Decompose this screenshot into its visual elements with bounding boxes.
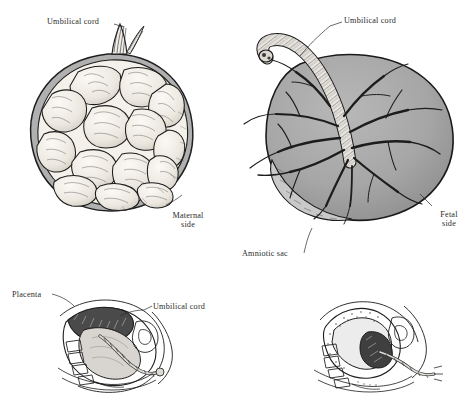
maternal-cord-stump: [112, 24, 144, 54]
fetal-side-panel: [244, 22, 453, 253]
label-fetal-side-line2: side: [432, 219, 466, 228]
label-amniotic-sac: Amniotic sac: [242, 249, 288, 258]
label-fetal-side-line1: Fetal: [432, 210, 466, 219]
illustration-canvas: Umbilical cord Maternal side Umbilical c…: [0, 0, 469, 399]
label-maternal-side-line1: Maternal: [166, 211, 210, 220]
label-umbilical-cord-maternal: Umbilical cord: [47, 17, 99, 26]
uterine-section-right: [314, 302, 443, 392]
maternal-side-panel: [31, 24, 193, 211]
leader-line-fetal-cord: [330, 22, 342, 26]
label-placenta-section: Placenta: [12, 290, 41, 299]
label-umbilical-cord-section: Umbilical cord: [153, 302, 205, 311]
leader-line-amniotic-sac: [304, 228, 312, 253]
label-maternal-side-line2: side: [166, 220, 210, 229]
anatomical-drawing: [0, 0, 469, 399]
label-umbilical-cord-fetal: Umbilical cord: [344, 16, 396, 25]
